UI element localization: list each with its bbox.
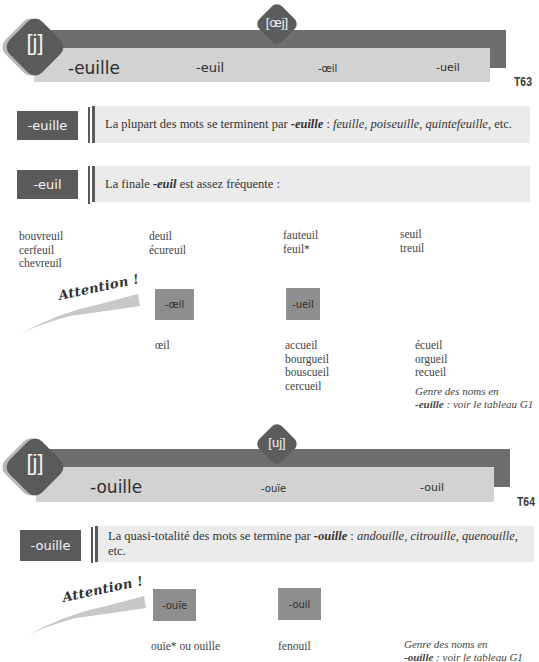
rule-examples: feuille, poiseuille, quintefeuille (333, 117, 488, 131)
header-ouie: -ouïe (261, 483, 286, 494)
phoneme-main: [j] (12, 30, 58, 56)
phoneme-secondary: [uj] (259, 435, 295, 450)
rule-euil: La finale -euil est assez fréquente : (92, 166, 530, 202)
word-column: fenouil (278, 640, 311, 654)
tag-ouie: -ouïe (153, 589, 196, 621)
tag-euil: -euil (17, 170, 78, 199)
attention-banner: Attention ! (20, 584, 150, 654)
attention-banner: Attention ! (10, 282, 140, 352)
rule-emph: -ouille (314, 529, 347, 543)
word-column: deuil écureuil (149, 230, 186, 257)
rule-emph: -euil (153, 177, 177, 191)
header-euil: -euil (196, 60, 224, 75)
word-column: œil (155, 339, 170, 353)
tag-ouille: -ouille (20, 530, 81, 561)
gender-note: Genre des noms en -ouille : voir le tabl… (404, 638, 523, 662)
tag-ueil: -ueil (286, 288, 320, 320)
table-code: T63 (514, 74, 532, 89)
word-column: accueil bourgueil bouscueil cercueil (285, 339, 329, 393)
header-ouil: -ouil (420, 481, 444, 494)
header-ueil: -ueil (436, 61, 460, 74)
table-code: T64 (517, 494, 535, 509)
word-column: ouïe* ou ouille (151, 640, 220, 654)
word-column: fauteuil feuil* (283, 229, 318, 256)
tag-ouil: -ouil (278, 588, 321, 620)
rule-euille: La plupart des mots se terminent par -eu… (92, 106, 530, 143)
header-oeil: -œil (318, 63, 337, 74)
rule-divider (88, 166, 90, 204)
rule-examples: andouille, citrouille, quenouille (357, 529, 515, 543)
header-ouille: -ouille (90, 477, 142, 497)
word-column: seuil treuil (400, 228, 424, 255)
gender-note: Genre des noms en -euille : voir le tabl… (415, 385, 533, 411)
tag-oeil: -œil (155, 289, 194, 320)
rule-divider (91, 527, 93, 563)
word-column: bouvreuil cerfeuil chevreuil (19, 230, 63, 271)
header-euille: -euille (68, 58, 120, 78)
phoneme-main: [j] (12, 450, 58, 476)
rule-divider (88, 107, 90, 143)
phoneme-secondary: [œj] (259, 15, 295, 30)
rule-ouille: La quasi-totalité des mots se termine pa… (95, 526, 534, 562)
word-column: écueil orgueil recueil (415, 339, 447, 380)
tag-euille: -euille (17, 111, 78, 140)
rule-emph: -euille (291, 117, 324, 131)
